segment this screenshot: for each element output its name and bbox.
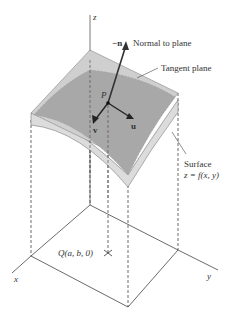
normal-arrowhead — [122, 41, 129, 50]
normal-label: Normal to plane — [133, 38, 191, 48]
tangent-plane-leader — [137, 68, 158, 78]
x-axis-label: x — [13, 274, 18, 284]
point-q-label: Q(a, b, 0) — [58, 248, 93, 258]
point-p — [106, 101, 110, 105]
u-label: u — [131, 121, 136, 131]
point-p-label: P — [100, 90, 107, 100]
surface-leader — [172, 132, 186, 154]
surface-label: Surface — [184, 159, 211, 169]
xy-plane — [12, 205, 218, 307]
v-label: v — [93, 125, 98, 135]
tangent-plane-label: Tangent plane — [161, 63, 212, 73]
neg-n-label: −n — [112, 38, 122, 48]
surface-equation: z = f(x, y) — [183, 170, 219, 180]
diagram-canvas: z x y −n Normal to plane Tangent plane P… — [0, 0, 231, 320]
z-axis-label: z — [92, 12, 97, 22]
y-axis-label: y — [206, 271, 211, 281]
